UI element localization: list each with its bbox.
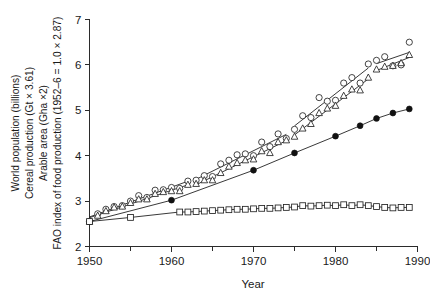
data-point-triangle-open [340, 92, 347, 98]
x-tick-label: 1960 [159, 255, 185, 267]
data-point-square-open [193, 209, 199, 215]
data-point-square-open [234, 206, 240, 212]
data-point-square-open [308, 203, 314, 209]
data-point-circle-filled [292, 150, 298, 156]
data-point-square-open [283, 205, 289, 211]
data-point-circle-filled [169, 197, 175, 203]
data-point-triangle-open [291, 133, 298, 139]
x-axis-title: Year [241, 278, 264, 290]
y-tick-label-group: 234567 [75, 14, 82, 253]
data-point-circle-open [275, 131, 281, 137]
axis-spines [90, 20, 418, 247]
y-axis-title-world-population: World population (billions) [10, 74, 21, 191]
data-point-circle-filled [390, 110, 396, 116]
data-point-square-open [316, 203, 322, 209]
y-tick-label: 2 [75, 241, 81, 253]
data-point-circle-open [218, 161, 224, 167]
figure-container: World population (billions) Cereal produ… [0, 0, 430, 300]
x-tick-label: 1970 [241, 255, 267, 267]
x-tick-label: 1950 [77, 255, 103, 267]
data-point-triangle-open [349, 86, 356, 92]
data-point-circle-open [382, 54, 388, 60]
data-point-triangle-open [316, 109, 323, 115]
data-point-square-open [251, 206, 257, 212]
data-point-triangle-open [373, 66, 380, 72]
y-tick-label: 7 [75, 14, 81, 26]
data-point-square-open [333, 203, 339, 209]
series-trend-0 [196, 134, 286, 179]
data-point-square-open [406, 205, 412, 211]
data-point-circle-filled [251, 167, 257, 173]
data-point-square-open [226, 207, 232, 213]
y-tick-label: 4 [75, 150, 82, 162]
data-point-square-open [324, 202, 330, 208]
data-point-square-open [210, 208, 216, 214]
data-point-square-open [218, 207, 224, 213]
data-point-circle-open [316, 94, 322, 100]
y-axis-title-cereal-production: Cereal production (Gt × 3.61) [24, 67, 35, 199]
data-point-square-open [275, 205, 281, 211]
data-point-square-open [300, 203, 306, 209]
data-point-square-open [177, 209, 183, 215]
data-point-circle-filled [374, 116, 380, 122]
data-point-square-open [292, 204, 298, 210]
data-point-circle-filled [406, 106, 412, 112]
data-point-circle-open [341, 80, 347, 86]
data-point-square-open [349, 203, 355, 209]
x-tick-label: 1980 [323, 255, 349, 267]
data-point-circle-open [373, 57, 379, 63]
x-tick-label-group: 19501960197019801990 [77, 255, 430, 267]
data-point-triangle-open [357, 87, 364, 93]
y-axis-title-fao-index: FAO index of food production (1952–6 = 1… [52, 17, 63, 250]
data-point-square-open [382, 205, 388, 211]
data-point-circle-filled [357, 123, 363, 129]
data-point-circle-open [259, 139, 265, 145]
data-point-square-open [242, 206, 248, 212]
data-point-circle-open [300, 113, 306, 119]
data-point-square-open [128, 215, 134, 221]
y-tick-label: 6 [75, 59, 81, 71]
scatter-chart: World population (billions) Cereal produ… [0, 0, 430, 300]
data-point-circle-open [357, 80, 363, 86]
data-point-triangle-open [299, 125, 306, 131]
data-point-square-open [398, 205, 404, 211]
data-point-circle-open [291, 126, 297, 132]
data-point-square-open [87, 219, 93, 225]
data-point-square-open [365, 203, 371, 209]
data-point-triangle-open [217, 169, 224, 175]
data-point-triangle-open [258, 148, 265, 154]
series-marker-group [86, 39, 412, 225]
x-tick-label: 1990 [405, 255, 430, 267]
data-point-circle-open [324, 98, 330, 104]
y-axis-title-arable-area: Arable area (Gha ×2) [38, 85, 49, 181]
y-tick-label: 3 [75, 195, 81, 207]
data-point-circle-filled [333, 133, 339, 139]
data-point-circle-open [365, 61, 371, 67]
data-point-square-open [357, 202, 363, 208]
y-tick-label: 5 [75, 104, 81, 116]
data-point-triangle-open [406, 51, 413, 57]
data-point-square-open [259, 205, 265, 211]
data-point-triangle-open [365, 74, 372, 80]
data-point-square-open [267, 205, 273, 211]
data-point-circle-open [349, 75, 355, 81]
data-point-square-open [201, 208, 207, 214]
data-point-circle-open [234, 152, 240, 158]
y-axis-title-group: World population (billions) Cereal produ… [10, 17, 63, 250]
data-point-square-open [390, 205, 396, 211]
data-point-square-open [185, 209, 191, 215]
data-point-circle-open [406, 39, 412, 45]
data-point-square-open [374, 204, 380, 210]
data-point-square-open [341, 202, 347, 208]
